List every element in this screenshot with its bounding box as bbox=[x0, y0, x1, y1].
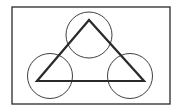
bottom-left-circle bbox=[28, 54, 73, 99]
triangle bbox=[37, 20, 144, 81]
diagram-canvas bbox=[0, 0, 177, 109]
bottom-right-circle bbox=[108, 54, 153, 99]
